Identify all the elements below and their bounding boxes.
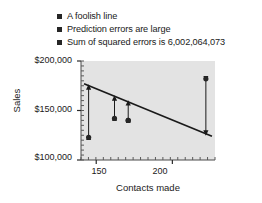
data-point [203, 76, 208, 81]
data-point [126, 118, 131, 123]
data-point [86, 135, 91, 140]
x-major-ticks [96, 160, 172, 164]
y-major-ticks [77, 61, 81, 160]
plot-area [0, 0, 262, 203]
chart-figure: A foolish line Prediction errors are lar… [0, 0, 262, 203]
data-point [112, 116, 117, 121]
y-minor-ticks [81, 61, 84, 160]
